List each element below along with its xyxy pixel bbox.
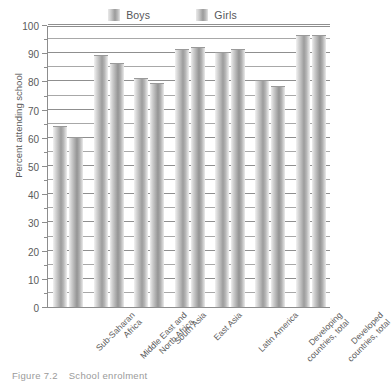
bar-group: [53, 27, 83, 307]
bar-group: [94, 27, 124, 307]
legend-label-girls: Girls: [214, 9, 237, 21]
y-tick-label: 70: [28, 105, 39, 116]
y-tick-minor: [44, 39, 47, 40]
y-tick-minor: [44, 265, 47, 266]
figure-caption-number: Figure 7.2: [12, 370, 58, 381]
y-tick-label: 40: [28, 190, 39, 201]
bar-boys-3: [175, 49, 189, 307]
bar-boys-2: [134, 78, 148, 307]
x-tick-label: East Asia: [211, 310, 243, 342]
chart-legend: Boys Girls: [0, 6, 345, 24]
y-tick-major: [42, 222, 47, 223]
bar-boys-1: [94, 55, 108, 307]
x-tick-label-line: East Asia: [211, 310, 243, 342]
y-tick-minor: [44, 180, 47, 181]
y-tick-label: 30: [28, 218, 39, 229]
bar-girls-6: [312, 35, 326, 307]
plot-area: [47, 26, 330, 308]
y-tick-minor: [44, 96, 47, 97]
y-tick-minor: [44, 208, 47, 209]
bar-girls-2: [150, 83, 164, 307]
legend-swatch-girls-icon: [196, 9, 208, 21]
y-tick-minor: [44, 152, 47, 153]
y-tick-minor: [44, 67, 47, 68]
x-axis-tick-labels: Sub-SaharanAfricaMiddle East andNorth Af…: [47, 310, 330, 372]
bar-group: [175, 27, 205, 307]
gridline-major: [48, 24, 330, 25]
bar-girls-1: [110, 63, 124, 307]
y-tick-label: 80: [28, 77, 39, 88]
bar-group: [134, 27, 164, 307]
x-tick-label: Latin America: [256, 310, 300, 354]
figure-caption: Figure 7.2 School enrolment: [12, 370, 342, 381]
y-tick-major: [42, 81, 47, 82]
x-tick-label: Sub-SaharanAfrica: [94, 310, 144, 360]
y-tick-major: [42, 307, 47, 308]
y-tick-major: [42, 279, 47, 280]
y-tick-label: 20: [28, 246, 39, 257]
y-tick-major: [42, 110, 47, 111]
y-tick-minor: [44, 124, 47, 125]
y-tick-major: [42, 194, 47, 195]
legend-label-boys: Boys: [126, 9, 150, 21]
y-tick-minor: [44, 293, 47, 294]
y-axis-ticks: [47, 26, 48, 308]
legend-entry-boys: Boys: [108, 9, 150, 21]
y-tick-label: 90: [28, 49, 39, 60]
y-tick-major: [42, 166, 47, 167]
bar-group: [255, 27, 285, 307]
bar-series-container: [48, 27, 330, 307]
y-tick-major: [42, 138, 47, 139]
x-tick-label: Middle East andNorth Africa: [138, 310, 196, 368]
bar-boys-0: [53, 126, 67, 307]
x-tick-label-line: Latin America: [256, 310, 300, 354]
bar-boys-4: [215, 52, 229, 307]
bar-girls-0: [69, 137, 83, 307]
bar-group: [215, 27, 245, 307]
y-tick-label: 60: [28, 133, 39, 144]
x-tick-label: Developingcountries, total: [298, 310, 352, 364]
y-tick-label: 10: [28, 274, 39, 285]
bar-boys-5: [255, 80, 269, 307]
bar-girls-3: [191, 47, 205, 307]
bar-girls-5: [271, 86, 285, 307]
legend-swatch-boys-icon: [108, 9, 120, 21]
legend-entry-girls: Girls: [196, 9, 237, 21]
y-axis-title: Percent attending school: [13, 46, 24, 206]
figure-caption-text: School enrolment: [69, 370, 148, 381]
bar-boys-6: [296, 35, 310, 307]
bar-girls-4: [231, 49, 245, 307]
y-tick-major: [42, 53, 47, 54]
bar-group: [296, 27, 326, 307]
y-tick-label: 50: [28, 162, 39, 173]
y-tick-major: [42, 251, 47, 252]
y-tick-label: 100: [22, 21, 39, 32]
x-tick-label: Developedcountries, total: [338, 310, 392, 364]
y-tick-minor: [44, 237, 47, 238]
y-tick-label: 0: [33, 303, 39, 314]
y-tick-major: [42, 25, 47, 26]
